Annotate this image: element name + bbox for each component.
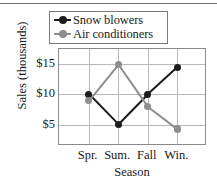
data-series-layer <box>59 49 205 144</box>
legend-marker-air-conditioners-icon <box>54 28 71 40</box>
data-point <box>174 64 181 71</box>
y-tick-label: $5 <box>20 118 55 130</box>
y-tick-label: $10 <box>20 87 55 99</box>
series-line-segment <box>88 64 119 102</box>
data-point <box>115 121 122 128</box>
legend-item-snow-blowers: Snow blowers <box>54 13 163 27</box>
legend-marker-snow-blowers-icon <box>54 14 71 26</box>
data-point <box>115 61 122 68</box>
x-tick-label: Win. <box>154 148 198 162</box>
chart-legend: Snow blowers Air conditioners <box>49 11 168 44</box>
legend-label-snow-blowers: Snow blowers <box>73 14 143 27</box>
series-line-segment <box>147 66 178 95</box>
data-point <box>85 97 92 104</box>
series-line-segment <box>88 94 119 126</box>
data-point <box>144 91 151 98</box>
legend-label-air-conditioners: Air conditioners <box>73 28 153 41</box>
data-point <box>174 125 181 132</box>
plot-area <box>58 48 206 145</box>
x-axis-tick-labels: Spr.Sum.FallWin. <box>58 148 206 164</box>
series-line-segment <box>117 64 148 108</box>
y-tick-label: $15 <box>20 57 55 69</box>
legend-item-air-conditioners: Air conditioners <box>54 27 163 41</box>
x-axis-title: Season <box>58 165 206 180</box>
